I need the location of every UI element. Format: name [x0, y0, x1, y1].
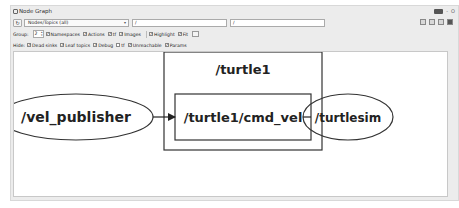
options-row: Group: 2 ▴▾ ✓Namespaces ✓Actions ✓tf ✓Im…: [13, 29, 456, 39]
tf-checkbox[interactable]: ✓tf: [108, 32, 116, 37]
node-label: /turtlesim: [315, 111, 381, 125]
hide-label: Hide:: [13, 43, 25, 48]
group-value: 2: [35, 31, 38, 36]
fit-checkbox[interactable]: ✓Fit: [178, 32, 188, 37]
group-label: Group:: [13, 32, 29, 37]
check-icon: ✓: [27, 43, 31, 47]
group-spinbox[interactable]: 2 ▴▾: [33, 30, 44, 38]
topic-filter-input[interactable]: /: [230, 19, 325, 27]
graph-type-select[interactable]: Nodes/Topics (all) ▾: [24, 19, 129, 27]
separator: [146, 31, 147, 38]
graph-canvas[interactable]: /turtle1 /turtle1/cmd_vel /vel_publisher…: [13, 51, 448, 197]
app-icon: [13, 9, 18, 14]
export-tools: [420, 19, 453, 25]
check-icon: ✓: [93, 43, 97, 47]
check-icon: ✓: [178, 32, 182, 36]
unreachable-checkbox[interactable]: ✓Unreachable: [128, 43, 162, 48]
check-icon: ✓: [165, 43, 169, 47]
graph-svg: /turtle1 /turtle1/cmd_vel /vel_publisher…: [14, 52, 444, 193]
save-svg-icon[interactable]: [438, 19, 444, 25]
actions-checkbox[interactable]: ✓Actions: [83, 32, 105, 37]
chevron-down-icon: ▾: [124, 20, 126, 26]
window-title: Node Graph: [19, 6, 52, 17]
save-image-icon[interactable]: [447, 19, 453, 25]
highlight-checkbox[interactable]: ✓Highlight: [149, 32, 175, 37]
node-graph-window: Node Graph - O ↻ Nodes/Topics (all) ▾ / …: [10, 5, 459, 201]
refresh-button[interactable]: ↻: [13, 19, 22, 27]
namespace-label: /turtle1: [215, 62, 270, 77]
node-label: /vel_publisher: [21, 109, 131, 126]
spin-arrows-icon: ▴▾: [41, 31, 43, 37]
check-icon: ✓: [119, 32, 123, 36]
leaf-topics-checkbox[interactable]: ✓Leaf topics: [60, 43, 90, 48]
toolbar-row: ↻ Nodes/Topics (all) ▾ / /: [13, 18, 456, 28]
check-icon: ✓: [46, 32, 50, 36]
save-dot-icon[interactable]: [429, 19, 435, 25]
close-button[interactable]: O: [451, 8, 455, 15]
images-checkbox[interactable]: ✓Images: [119, 32, 141, 37]
load-dot-icon[interactable]: [420, 19, 426, 25]
hide-tf-checkbox[interactable]: tf: [116, 43, 124, 48]
topic-label: /turtle1/cmd_vel: [184, 110, 303, 126]
unchecked-box-icon: [116, 43, 120, 47]
namespaces-checkbox[interactable]: ✓Namespaces: [46, 32, 80, 37]
graph-type-value: Nodes/Topics (all): [28, 20, 68, 25]
node-filter-input[interactable]: /: [132, 19, 227, 27]
dead-sinks-checkbox[interactable]: ✓Dead sinks: [27, 43, 57, 48]
hide-row: Hide: ✓Dead sinks ✓Leaf topics ✓Debug tf…: [13, 40, 456, 50]
check-icon: ✓: [128, 43, 132, 47]
refresh-icon: ↻: [15, 20, 19, 26]
params-checkbox[interactable]: ✓Params: [165, 43, 187, 48]
debug-checkbox[interactable]: ✓Debug: [93, 43, 113, 48]
title-bar: Node Graph - O: [11, 6, 458, 17]
window-controls: - O: [434, 8, 455, 15]
check-icon: ✓: [83, 32, 87, 36]
check-icon: ✓: [60, 43, 64, 47]
check-icon: ✓: [149, 32, 153, 36]
check-icon: ✓: [108, 32, 112, 36]
minimize-button[interactable]: -: [446, 8, 448, 15]
dgp-badge-icon[interactable]: [434, 9, 443, 14]
fit-in-view-button[interactable]: [192, 31, 199, 37]
